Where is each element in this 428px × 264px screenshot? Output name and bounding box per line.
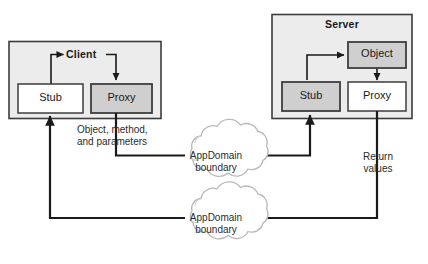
server-stub-label: Stub bbox=[282, 90, 340, 101]
client-stub-label: Stub bbox=[18, 92, 83, 103]
cloud-bottom-label-line1: AppDomain bbox=[177, 212, 255, 224]
server-title: Server bbox=[321, 19, 363, 30]
server-object-label: Object bbox=[348, 48, 406, 59]
client-title: Client bbox=[66, 49, 96, 60]
return-label-line2: values bbox=[357, 163, 399, 175]
cloud-top-label-line2: boundary bbox=[177, 162, 255, 174]
client-proxy-label: Proxy bbox=[91, 92, 152, 103]
request-label-line1: Object, method, bbox=[77, 124, 148, 136]
cloud-bottom-label-line2: boundary bbox=[177, 224, 255, 236]
server-proxy-label: Proxy bbox=[348, 90, 406, 101]
cloud-top-label-line1: AppDomain bbox=[177, 150, 255, 162]
return-label-line1: Return bbox=[357, 151, 399, 163]
diagram-canvas: Client Server Stub Proxy Object Stub Pro… bbox=[0, 0, 428, 264]
request-label-line2: and parameters bbox=[77, 136, 147, 148]
